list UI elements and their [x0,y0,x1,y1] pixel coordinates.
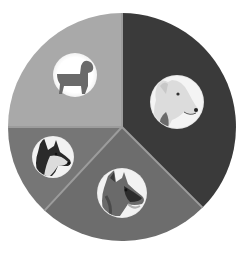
husky-photo-icon [32,136,74,178]
dog-silhouette-icon [53,53,97,97]
pie-chart-svg [0,0,246,253]
pie-chart [0,0,246,253]
samoyed-photo-icon [150,75,204,129]
german-shepherd-photo-icon [97,168,147,218]
